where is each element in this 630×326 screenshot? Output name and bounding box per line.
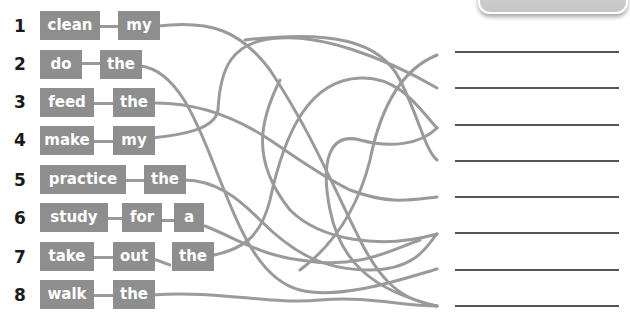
row-number: 2 [12,54,28,74]
word-box[interactable]: the [144,165,186,194]
row-number: 5 [12,170,28,190]
word-box[interactable]: practice [40,165,126,194]
maze-lines [0,0,630,326]
row-number: 6 [12,208,28,228]
word-box[interactable]: a [174,203,204,232]
word-box[interactable]: out [113,242,155,271]
maze-path-12 [326,128,437,306]
connector [108,217,122,220]
row-number: 1 [12,16,28,36]
word-box[interactable]: clean [40,11,100,40]
word-box[interactable]: my [118,11,160,40]
word-box[interactable]: the [113,88,155,117]
connector [94,294,113,297]
connector [94,102,113,105]
answer-line-3[interactable] [455,124,619,126]
answer-line-8[interactable] [455,305,619,307]
row-number: 4 [12,130,28,150]
connector [94,140,113,143]
word-box[interactable]: study [40,203,108,232]
answer-line-4[interactable] [455,160,619,162]
answer-line-1[interactable] [455,51,619,53]
word-box[interactable]: feed [40,88,94,117]
row-number: 3 [12,92,28,112]
word-box[interactable]: walk [40,280,94,309]
word-box[interactable]: the [113,280,155,309]
word-box[interactable]: make [40,126,94,155]
answer-line-7[interactable] [455,269,619,271]
connector [82,62,100,65]
connector [100,25,118,28]
connector [94,256,113,259]
word-box[interactable]: do [40,50,82,79]
word-box[interactable]: my [113,126,155,155]
word-box[interactable]: for [122,203,162,232]
maze-path-8 [152,294,437,306]
word-box[interactable]: the [100,50,142,79]
connector [162,219,174,222]
word-box[interactable]: take [40,242,94,271]
answer-line-5[interactable] [455,196,619,198]
row-number: 7 [12,247,28,267]
connector [126,179,144,182]
answer-line-6[interactable] [455,232,619,234]
row-number: 8 [12,285,28,305]
answer-line-2[interactable] [455,87,619,89]
word-box[interactable]: the [172,242,214,271]
